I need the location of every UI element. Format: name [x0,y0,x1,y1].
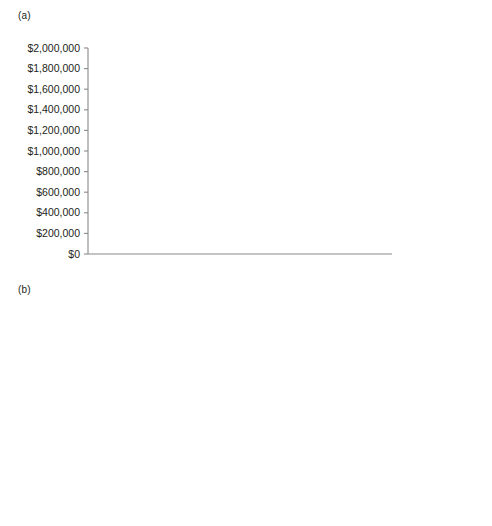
y-axis-tick-label: $1,000,000 [27,145,80,157]
y-axis-tick-label: $0 [68,248,80,260]
panel-b-plot [0,276,492,526]
y-axis-tick-label: $400,000 [36,206,80,218]
panel-a-plot: $0$200,000$400,000$600,000$800,000$1,000… [0,0,492,276]
y-axis-tick-label: $200,000 [36,227,80,239]
y-axis-tick-label: $800,000 [36,165,80,177]
y-axis-tick-label: $1,400,000 [27,103,80,115]
chart-panel-a: (a) $0$200,000$400,000$600,000$800,000$1… [0,0,492,276]
y-axis-tick-label: $1,600,000 [27,83,80,95]
chart-panel-b: (b) [0,276,492,526]
y-axis-tick-label: $1,200,000 [27,124,80,136]
y-axis-tick-label: $600,000 [36,186,80,198]
y-axis-tick-label: $1,800,000 [27,62,80,74]
y-axis-tick-label: $2,000,000 [27,42,80,54]
